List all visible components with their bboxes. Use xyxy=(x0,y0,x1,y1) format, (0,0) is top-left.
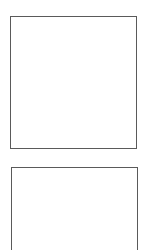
page xyxy=(0,0,144,250)
empty-panel-top xyxy=(10,16,137,149)
empty-panel-bottom xyxy=(11,167,138,250)
